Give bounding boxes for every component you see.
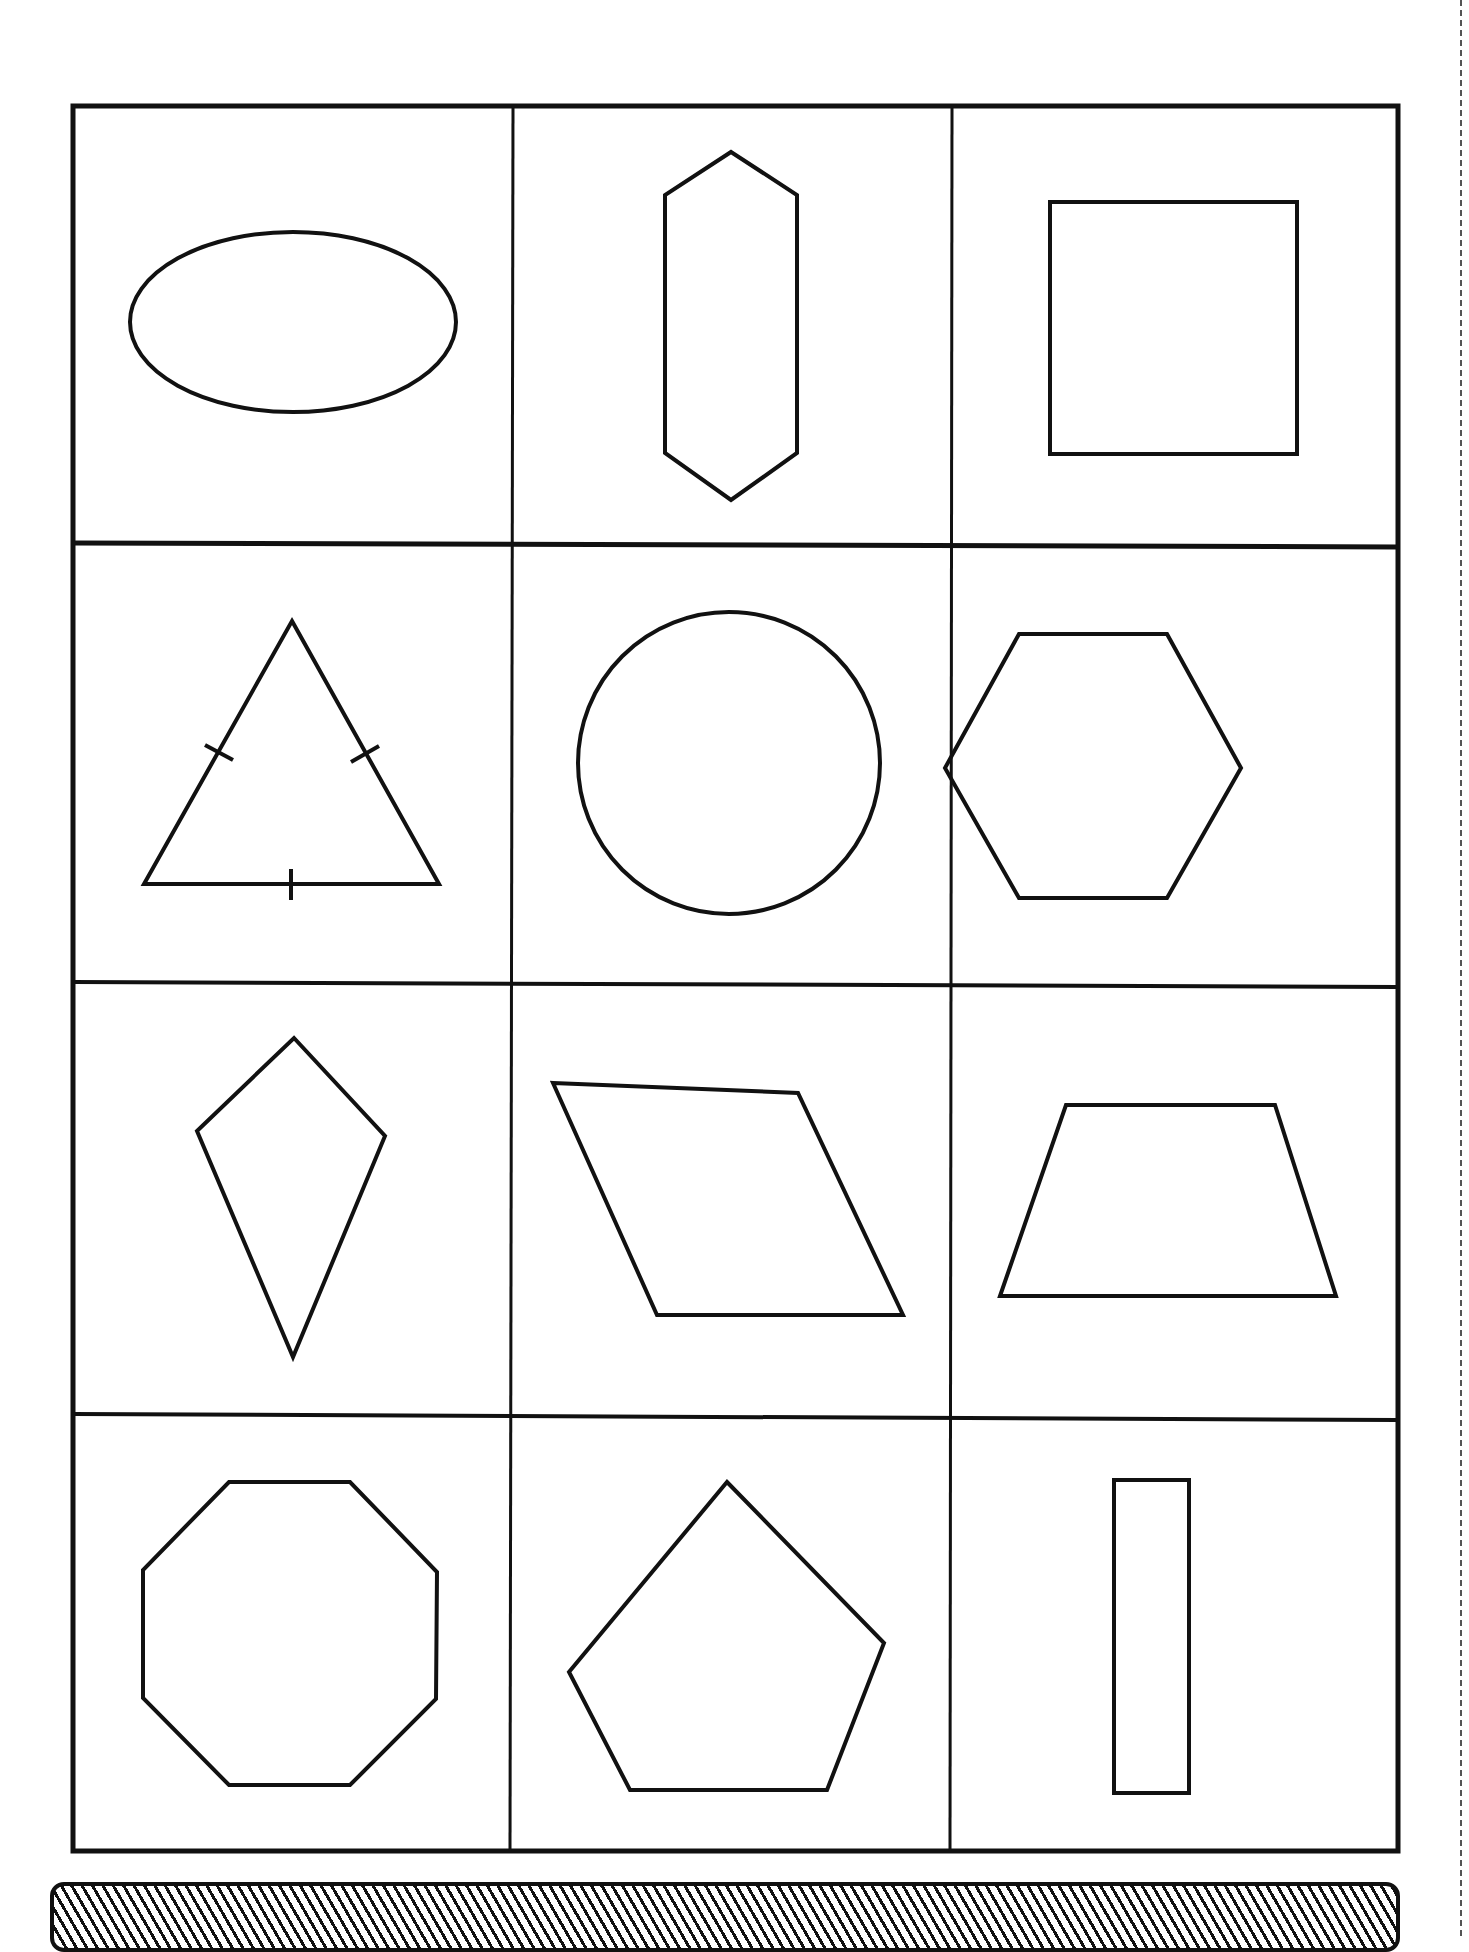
grid-divider-h2	[73, 982, 1398, 987]
square-shape	[1050, 202, 1297, 454]
grid-divider-v1	[510, 106, 513, 1851]
elongated-hexagon-shape	[665, 152, 797, 500]
parallelogram-shape	[553, 1083, 903, 1315]
regular-hexagon-shape	[945, 634, 1241, 898]
circle-shape	[578, 612, 880, 914]
pentagon-shape	[569, 1482, 884, 1790]
grid-frame	[73, 106, 1398, 1851]
grid-divider-v2	[950, 108, 952, 1851]
striped-footer-bar	[50, 1882, 1400, 1952]
rectangle-shape	[1114, 1480, 1189, 1793]
grid-divider-h3	[73, 1414, 1398, 1420]
trapezoid-shape	[1000, 1105, 1336, 1296]
equilateral-triangle-shape	[144, 621, 439, 884]
kite-shape	[197, 1038, 385, 1357]
grid-divider-h1	[73, 543, 1398, 547]
ellipse-shape	[130, 232, 456, 412]
octagon-shape	[143, 1482, 437, 1785]
dashed-cut-line	[1460, 0, 1462, 1936]
